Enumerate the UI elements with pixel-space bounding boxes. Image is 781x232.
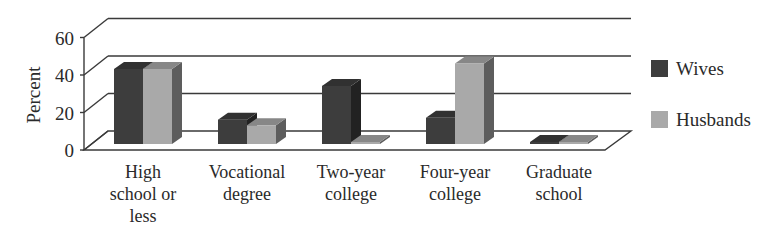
x-category-label: Highschool orless — [110, 162, 177, 226]
bar-husbands-0 — [143, 62, 182, 144]
y-tick-label: 20 — [55, 103, 74, 124]
y-tick-label: 60 — [55, 28, 74, 49]
svg-text:Wives: Wives — [676, 58, 724, 79]
legend-swatch — [651, 111, 668, 128]
legend-swatch — [651, 60, 668, 77]
legend: WivesHusbands — [651, 58, 751, 130]
x-category-label: Four-yearcollege — [420, 162, 491, 204]
legend-item-husbands: Husbands — [651, 109, 751, 130]
legend-item-wives: Wives — [651, 58, 724, 79]
x-category-label: Two-yearcollege — [317, 162, 386, 204]
y-tick-label: 40 — [55, 65, 74, 86]
bar-wives-2 — [322, 79, 361, 144]
svg-text:Husbands: Husbands — [676, 109, 751, 130]
x-axis-labels: Highschool orlessVocationaldegreeTwo-yea… — [110, 162, 592, 226]
x-category-label: Graduateschool — [526, 162, 592, 204]
y-axis: 0204060 — [55, 28, 84, 162]
bar-husbands-1 — [247, 118, 286, 144]
chart: 0204060 Highschool orlessVocationaldegre… — [0, 0, 781, 232]
y-tick-label: 0 — [65, 140, 75, 161]
y-axis-label: Percent — [23, 66, 44, 124]
x-category-label: Vocationaldegree — [209, 162, 286, 204]
bar-husbands-3 — [455, 56, 494, 144]
